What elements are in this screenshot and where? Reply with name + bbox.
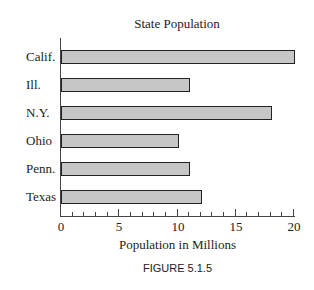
minor-tick	[281, 212, 282, 216]
major-tick	[177, 209, 178, 216]
minor-tick	[211, 212, 212, 216]
bar	[61, 134, 179, 148]
category-label: N.Y.	[26, 105, 50, 121]
figure-caption: FIGURE 5.1.5	[60, 262, 295, 274]
minor-tick	[246, 212, 247, 216]
bar	[61, 190, 202, 204]
minor-tick	[72, 212, 73, 216]
tick-label: 5	[104, 219, 134, 235]
category-label: Calif.	[26, 49, 55, 65]
bar	[61, 162, 190, 176]
tick-label: 20	[279, 219, 309, 235]
tick-label: 0	[46, 219, 76, 235]
minor-tick	[200, 212, 201, 216]
minor-tick	[188, 212, 189, 216]
tick-label: 10	[163, 219, 193, 235]
tick-label: 15	[221, 219, 251, 235]
major-tick	[60, 209, 61, 216]
category-label: Texas	[26, 189, 56, 205]
minor-tick	[83, 212, 84, 216]
category-label: Ill.	[26, 77, 41, 93]
minor-tick	[130, 212, 131, 216]
minor-tick	[107, 212, 108, 216]
category-label: Penn.	[26, 161, 55, 177]
bar	[61, 106, 272, 120]
major-tick	[118, 209, 119, 216]
minor-tick	[153, 212, 154, 216]
minor-tick	[223, 212, 224, 216]
x-axis-line	[60, 216, 295, 217]
minor-tick	[270, 212, 271, 216]
major-tick	[235, 209, 236, 216]
category-label: Ohio	[26, 133, 52, 149]
bar	[61, 78, 190, 92]
bar	[61, 50, 295, 64]
minor-tick	[258, 212, 259, 216]
minor-tick	[165, 212, 166, 216]
chart-title: State Population	[0, 16, 314, 32]
minor-tick	[95, 212, 96, 216]
minor-tick	[142, 212, 143, 216]
major-tick	[293, 209, 294, 216]
x-axis-title: Population in Millions	[60, 237, 295, 253]
